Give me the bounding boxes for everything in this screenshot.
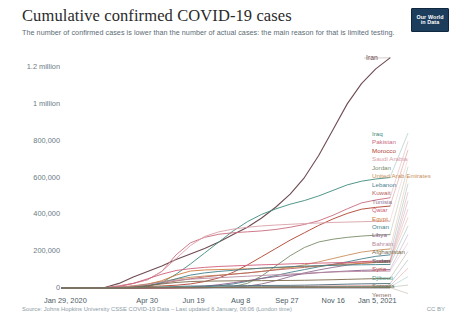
legend-item-pakistan[interactable]: Pakistan bbox=[372, 138, 396, 145]
legend-item-saudi-arabia[interactable]: Saudi Arabia bbox=[372, 155, 407, 162]
series-line-morocco bbox=[62, 206, 390, 288]
legend-item-sudan[interactable]: Sudan bbox=[372, 257, 390, 264]
legend-item-djibouti[interactable]: Djibouti bbox=[372, 274, 393, 281]
legend-item-tunisia[interactable]: Tunisia bbox=[372, 198, 392, 205]
legend-item-afghanistan[interactable]: Afghanistan bbox=[372, 248, 405, 255]
series-line-united-arab-emirates bbox=[62, 249, 390, 288]
legend-item-libya[interactable]: Libya bbox=[372, 231, 387, 238]
legend-item-qatar[interactable]: Qatar bbox=[372, 206, 388, 213]
legend-item-egypt[interactable]: Egypt bbox=[372, 215, 388, 222]
series-line-jordan bbox=[62, 235, 390, 288]
series-line-saudi-arabia bbox=[62, 221, 390, 288]
legend-item-lebanon[interactable]: Lebanon bbox=[372, 181, 396, 188]
our-world-in-data-logo[interactable]: Our World in Data bbox=[411, 8, 449, 32]
source-note: Source: Johns Hopkins University CSSE CO… bbox=[22, 306, 292, 312]
x-tick-2: Jun 19 bbox=[182, 296, 204, 305]
legend-item-somalia[interactable]: Somalia bbox=[372, 282, 395, 289]
license-note[interactable]: CC BY bbox=[427, 306, 445, 312]
legend-item-bahrain[interactable]: Bahrain bbox=[372, 240, 393, 247]
legend-connector-bahrain bbox=[390, 243, 408, 271]
x-tick-4: Sep 27 bbox=[275, 296, 298, 305]
legend-item-kuwait[interactable]: Kuwait bbox=[372, 189, 391, 196]
legend-item-united-arab-emirates[interactable]: United Arab Emirates bbox=[372, 172, 431, 179]
chart-subtitle: The number of confirmed cases is lower t… bbox=[22, 28, 395, 37]
legend-item-oman[interactable]: Oman bbox=[372, 223, 389, 230]
x-tick-0: Jan 29, 2020 bbox=[44, 296, 87, 305]
legend-item-syria[interactable]: Syria bbox=[372, 265, 386, 272]
logo-line-2: in Data bbox=[421, 20, 440, 26]
legend-item-yemen[interactable]: Yemen bbox=[372, 291, 391, 298]
series-label-iran: Iran bbox=[366, 54, 378, 61]
legend-item-iraq[interactable]: Iraq bbox=[372, 130, 383, 137]
series-line-iran bbox=[62, 58, 390, 288]
legend-item-jordan[interactable]: Jordan bbox=[372, 164, 391, 171]
page-title: Cumulative confirmed COVID-19 cases bbox=[22, 6, 292, 26]
x-tick-5: Nov 16 bbox=[322, 296, 345, 305]
legend-item-morocco[interactable]: Morocco bbox=[372, 147, 396, 154]
chart-container: Cumulative confirmed COVID-19 cases The … bbox=[0, 0, 455, 330]
x-tick-3: Aug 8 bbox=[231, 296, 250, 305]
x-tick-1: Apr 30 bbox=[136, 296, 158, 305]
